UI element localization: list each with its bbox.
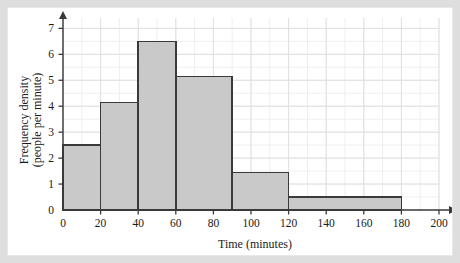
y-tick-label: 0 — [48, 204, 54, 216]
y-axis-tick-labels: 01234567 — [48, 22, 54, 216]
y-tick-label: 1 — [48, 178, 54, 190]
x-tick-label: 200 — [430, 217, 448, 229]
figure-container: 020406080100120140160180200 01234567 Tim… — [0, 0, 460, 263]
x-axis-title: Time (minutes) — [218, 237, 292, 251]
y-tick-label: 7 — [48, 22, 54, 34]
x-axis-tick-labels: 020406080100120140160180200 — [60, 217, 448, 229]
y-tick-label: 6 — [48, 48, 54, 60]
x-axis-arrow — [449, 206, 452, 214]
histogram-bar — [232, 172, 288, 210]
y-axis-title-line2: (people per minute) — [30, 73, 44, 168]
x-tick-label: 60 — [170, 217, 182, 229]
histogram-bar — [138, 41, 176, 210]
histogram-bar — [63, 145, 101, 210]
x-tick-label: 180 — [393, 217, 411, 229]
x-tick-label: 100 — [242, 217, 260, 229]
y-axis-arrow — [59, 11, 67, 19]
x-tick-label: 20 — [95, 217, 107, 229]
x-tick-label: 120 — [280, 217, 298, 229]
y-tick-label: 4 — [48, 100, 54, 112]
x-tick-label: 40 — [132, 217, 144, 229]
x-tick-label: 160 — [355, 217, 373, 229]
chart-paper: 020406080100120140160180200 01234567 Tim… — [8, 8, 452, 255]
y-tick-label: 3 — [48, 126, 54, 138]
y-axis-title-line1: Frequency density — [17, 76, 31, 164]
x-tick-label: 0 — [60, 217, 66, 229]
x-tick-label: 80 — [208, 217, 220, 229]
histogram-bar — [289, 197, 402, 210]
histogram-chart: 020406080100120140160180200 01234567 Tim… — [8, 8, 452, 255]
histogram-bar — [176, 76, 232, 210]
x-tick-label: 140 — [318, 217, 336, 229]
y-tick-label: 5 — [48, 74, 54, 86]
y-tick-label: 2 — [48, 152, 54, 164]
histogram-bar — [101, 102, 139, 210]
